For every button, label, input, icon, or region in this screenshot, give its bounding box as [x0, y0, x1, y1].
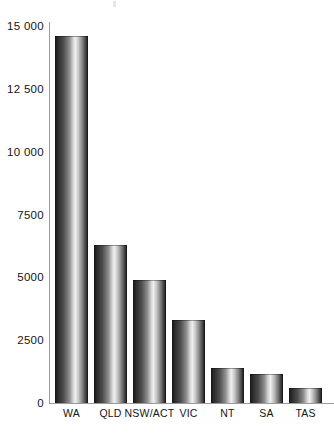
x-tick-label-qld: QLD	[99, 407, 121, 420]
bar-nt	[211, 368, 244, 403]
bar-chart: 15 000 12 500 10 000 7500 5000 2500 0 WA…	[0, 0, 334, 433]
x-tick-label-wa: WA	[63, 407, 80, 420]
bar-sa	[250, 374, 283, 403]
y-axis-tick-labels: 15 000 12 500 10 000 7500 5000 2500 0	[0, 0, 44, 433]
bar-wa	[55, 36, 88, 403]
plot-area	[50, 26, 334, 403]
y-tick-label: 0	[0, 398, 44, 409]
bar-qld	[94, 245, 127, 403]
y-tick-label: 10 000	[0, 146, 44, 157]
bar-vic	[172, 320, 205, 403]
x-axis-line	[49, 403, 334, 404]
top-edge-artifact	[113, 1, 116, 7]
y-tick-label: 2500	[0, 335, 44, 346]
x-tick-label-nswact: NSW/ACT	[125, 407, 175, 420]
x-tick-label-nt: NT	[220, 407, 234, 420]
bar-nswact	[133, 280, 166, 403]
y-tick-label: 5000	[0, 272, 44, 283]
bar-tas	[289, 388, 322, 403]
x-tick-label-sa: SA	[259, 407, 273, 420]
y-tick-label: 7500	[0, 209, 44, 220]
x-tick-label-vic: VIC	[179, 407, 197, 420]
y-tick-label: 15 000	[0, 21, 44, 32]
x-tick-label-tas: TAS	[295, 407, 315, 420]
y-tick-label: 12 500	[0, 83, 44, 94]
